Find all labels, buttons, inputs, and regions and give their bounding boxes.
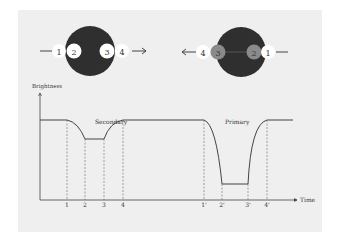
guide-lines	[67, 120, 267, 200]
label-2: 2	[251, 49, 256, 58]
label-2: 2	[71, 48, 76, 57]
light-curve	[40, 120, 293, 184]
label-1: 1	[265, 49, 270, 58]
left-star-system: 1 2 3 4	[40, 26, 146, 76]
y-axis-label: Brightness	[32, 83, 62, 90]
label-4: 4	[200, 49, 205, 58]
tick-4-prime: 4'	[264, 201, 270, 208]
tick-2-prime: 2'	[219, 201, 225, 208]
primary-eclipse-label: Primary	[225, 118, 250, 126]
label-4: 4	[119, 48, 124, 57]
tick-4: 4	[121, 201, 125, 208]
x-axis-label: Time	[300, 196, 316, 203]
tick-1: 1	[65, 201, 69, 208]
label-1: 1	[56, 48, 61, 57]
label-3: 3	[215, 49, 220, 58]
tick-1-prime: 1'	[201, 201, 207, 208]
tick-2: 2	[83, 201, 87, 208]
tick-3-prime: 3'	[245, 201, 251, 208]
label-3: 3	[104, 48, 109, 57]
light-curve-graph: Brightness Time Secondary Primary 1 2 3 …	[32, 83, 316, 208]
tick-3: 3	[102, 201, 106, 208]
arrow-right-icon	[132, 48, 146, 54]
right-star-system: 4 3 2 1	[182, 27, 288, 77]
arrow-left-icon	[182, 49, 196, 55]
eclipsing-binary-diagram: 1 2 3 4 4 3 2 1 Brightness Time	[0, 0, 339, 240]
tick-labels: 1 2 3 4 1' 2' 3' 4'	[65, 201, 270, 208]
x-axis-arrow-icon	[294, 199, 297, 202]
